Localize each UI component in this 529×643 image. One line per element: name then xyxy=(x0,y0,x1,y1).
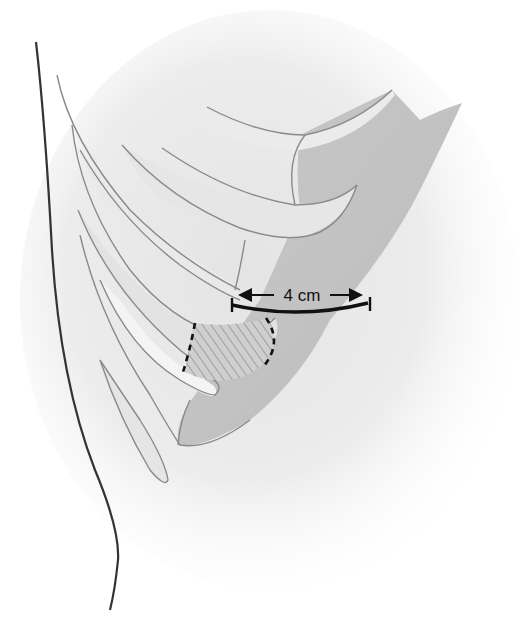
rib-cage-diagram: 4 cm xyxy=(0,0,529,643)
measurement-label: 4 cm xyxy=(284,286,321,305)
